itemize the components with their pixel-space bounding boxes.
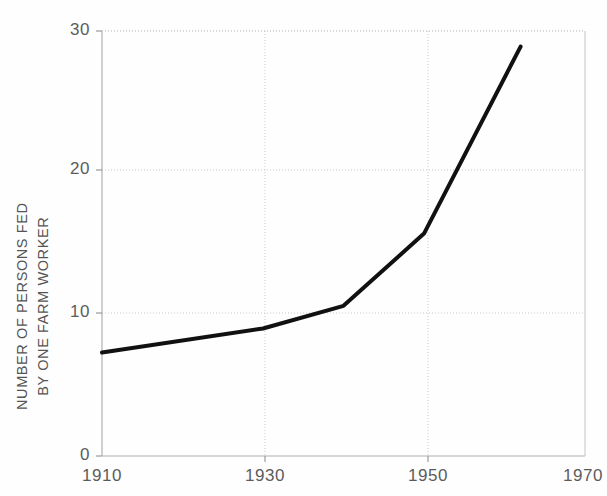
x-tick-label-1930: 1930 [235, 466, 295, 486]
y-tick-label-10: 10 [56, 302, 90, 322]
y-axis-ticks [96, 31, 102, 456]
y-tick-label-30: 30 [56, 20, 90, 40]
x-tick-label-1910: 1910 [72, 466, 132, 486]
y-axis-title: NUMBER OF PERSONS FED BY ONE FARM WORKER [12, 202, 54, 410]
x-axis-ticks [265, 456, 428, 462]
data-series-line [102, 47, 521, 353]
chart-figure: 30 20 10 0 1910 1930 1950 1970 NUMBER OF… [0, 0, 607, 496]
plot-frame [102, 31, 585, 456]
line-chart-canvas [0, 0, 607, 496]
y-tick-label-20: 20 [56, 159, 90, 179]
x-tick-label-1950: 1950 [398, 466, 458, 486]
y-tick-label-0: 0 [56, 445, 90, 465]
y-axis-title-line-1: NUMBER OF PERSONS FED [12, 202, 33, 410]
x-tick-label-1970: 1970 [553, 466, 607, 486]
gridlines [102, 31, 585, 456]
y-axis-title-line-2: BY ONE FARM WORKER [33, 202, 54, 410]
